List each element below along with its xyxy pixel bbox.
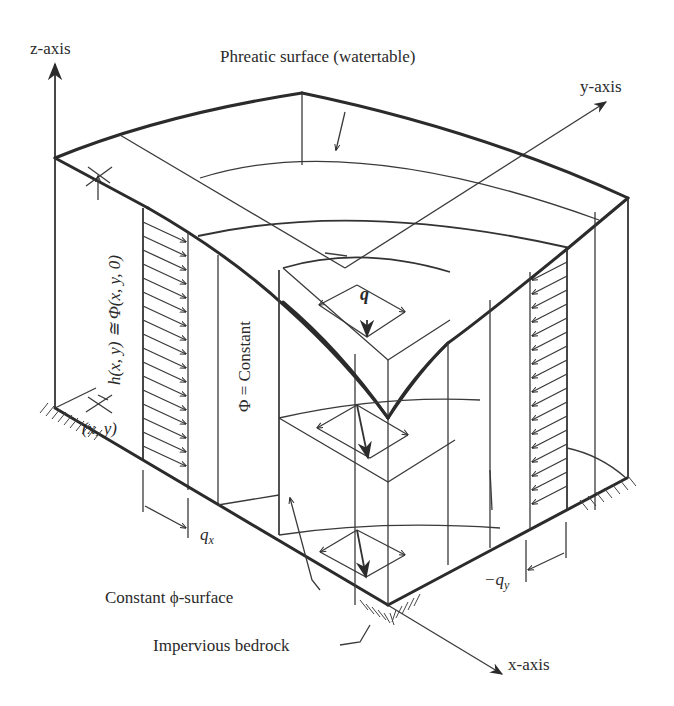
phi-constant-label: Φ = Constant bbox=[235, 321, 254, 412]
x-axis bbox=[386, 604, 502, 674]
groundwater-flow-diagram: z-axis Phreatic surface (watertable) y-a… bbox=[0, 0, 674, 706]
z-axis-label: z-axis bbox=[30, 39, 71, 58]
y-axis-label: y-axis bbox=[580, 77, 622, 96]
phreatic-surface-label: Phreatic surface (watertable) bbox=[220, 47, 415, 66]
flux-vector-label: q bbox=[360, 284, 369, 304]
flux-x-label: qx bbox=[200, 525, 215, 547]
constant-phi-surface-label: Constant ϕ-surface bbox=[105, 588, 233, 607]
flux-y-label: −qy bbox=[484, 570, 510, 592]
bedrock-edges bbox=[55, 388, 627, 605]
x-axis-label: x-axis bbox=[508, 655, 550, 674]
qx-flux-arrows bbox=[143, 222, 186, 466]
central-column bbox=[218, 253, 500, 605]
qy-flux-arrows bbox=[532, 262, 567, 504]
head-equation-label: h(x, y) ≅ Φ(x, y, 0) bbox=[105, 255, 124, 385]
impervious-bedrock-label: Impervious bedrock bbox=[153, 636, 290, 655]
phreatic-surface-outline bbox=[55, 93, 628, 510]
point-label: (x, y) bbox=[82, 419, 117, 438]
y-axis bbox=[345, 102, 606, 268]
